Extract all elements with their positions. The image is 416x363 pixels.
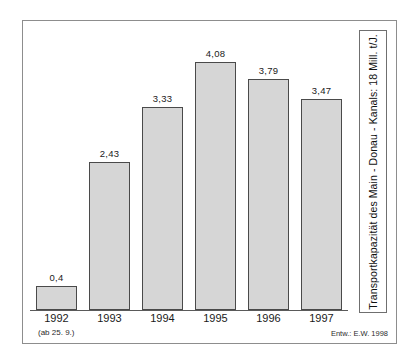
bar-value-label: 2,43 <box>83 148 136 159</box>
bar-slot: 3,79 <box>242 30 295 310</box>
bar-1993 <box>89 162 130 310</box>
bar-1994 <box>142 107 183 310</box>
bar-slot: 2,43 <box>83 30 136 310</box>
bars-layer: 0,42,433,334,083,793,47 <box>30 30 348 310</box>
x-axis-labels: 199219931994199519961997 <box>30 312 348 328</box>
footnote-1992: (ab 25. 9.) <box>38 328 74 337</box>
x-tick-label-1993: 1993 <box>83 312 136 324</box>
caption-vertical-label: Transportkapazität des Main - Donau - Ka… <box>367 34 379 310</box>
x-tick-label-1996: 1996 <box>242 312 295 324</box>
bar-slot: 4,08 <box>189 30 242 310</box>
bar-1997 <box>301 99 342 310</box>
x-tick-label-1997: 1997 <box>295 312 348 324</box>
bar-value-label: 3,33 <box>136 93 189 104</box>
attribution-text: Entw.: E.W. 1998 <box>331 329 388 338</box>
bar-slot: 3,47 <box>295 30 348 310</box>
bar-value-label: 4,08 <box>189 48 242 59</box>
x-tick-label-1992: 1992 <box>30 312 83 324</box>
x-tick-label-1995: 1995 <box>189 312 242 324</box>
bar-slot: 0,4 <box>30 30 83 310</box>
x-axis-line <box>30 310 348 311</box>
bar-value-label: 3,47 <box>295 85 348 96</box>
bar-value-label: 3,79 <box>242 65 295 76</box>
bar-1995 <box>195 62 236 310</box>
bar-1992 <box>36 286 77 310</box>
caption-box: Transportkapazität des Main - Donau - Ka… <box>359 30 387 313</box>
chart-figure: 0,42,433,334,083,793,47 1992199319941995… <box>0 0 416 363</box>
bar-slot: 3,33 <box>136 30 189 310</box>
bar-1996 <box>248 79 289 310</box>
x-tick-label-1994: 1994 <box>136 312 189 324</box>
bar-value-label: 0,4 <box>30 272 83 283</box>
